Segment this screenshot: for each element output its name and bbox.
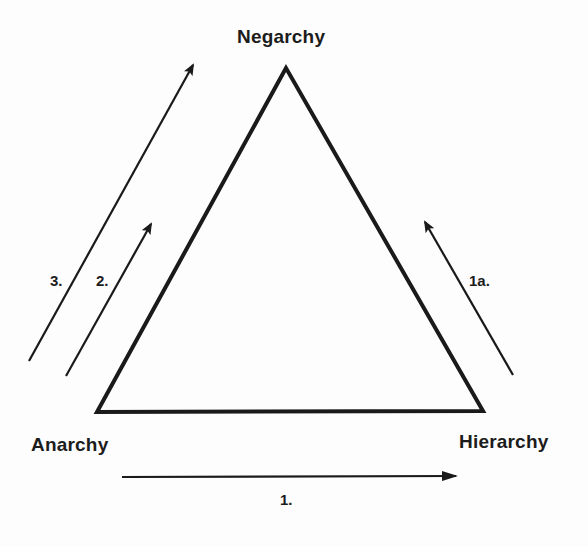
arrow-label-3: 3. bbox=[50, 272, 63, 289]
arrow-label-1a: 1a. bbox=[469, 272, 490, 289]
vertex-label-anarchy: Anarchy bbox=[31, 434, 108, 456]
arrow-1 bbox=[122, 476, 456, 477]
triangle bbox=[97, 68, 483, 412]
vertex-label-negarchy: Negarchy bbox=[237, 26, 325, 48]
diagram-canvas: Negarchy Anarchy Hierarchy 3. 2. 1a. 1. bbox=[0, 0, 588, 547]
vertex-label-hierarchy: Hierarchy bbox=[459, 431, 548, 453]
diagram-graphics bbox=[0, 0, 588, 547]
arrow-2 bbox=[66, 224, 151, 376]
arrow-3 bbox=[29, 65, 193, 361]
arrow-label-2: 2. bbox=[96, 272, 109, 289]
arrow-1a bbox=[425, 222, 513, 375]
arrow-label-1: 1. bbox=[280, 491, 293, 508]
